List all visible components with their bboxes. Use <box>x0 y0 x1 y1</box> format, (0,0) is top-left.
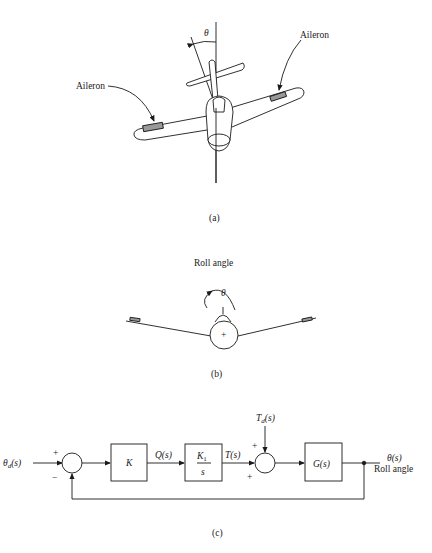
panel-a-theta-label: θ <box>204 28 209 38</box>
left-aileron-callout-arrow <box>108 86 154 121</box>
panel-b-theta-label: θ <box>221 288 226 298</box>
panel-b-airplane-front-view <box>126 290 316 349</box>
panel-b-title: Roll angle <box>194 258 233 268</box>
sum2-plus-top: + <box>252 441 257 451</box>
panel-b-center-mark: + <box>221 330 226 340</box>
right-aileron-callout-arrow <box>279 40 301 90</box>
output-theta-label: θ(s) <box>387 453 402 464</box>
summing-junction-1 <box>62 453 82 473</box>
right-aileron-label: Aileron <box>300 30 329 40</box>
disturbance-Td-label: Td(s) <box>256 413 275 425</box>
nose-cowling <box>208 134 230 146</box>
sum2-plus-bottom: + <box>247 472 252 482</box>
figure-canvas: θ Aileron Aileron (a) Roll angle θ + (b) <box>0 0 432 553</box>
sum1-minus-sign: − <box>52 473 57 483</box>
panel-c-caption: (c) <box>212 528 223 539</box>
block-G-label: G(s) <box>313 459 330 470</box>
left-aileron-label: Aileron <box>76 81 105 91</box>
left-wing-front <box>126 321 211 336</box>
theta-arc-arrow <box>193 41 216 44</box>
block-K1-denominator: s <box>201 467 205 477</box>
sum1-plus-sign: + <box>53 448 58 458</box>
panel-a-caption: (a) <box>209 213 220 224</box>
left-aileron-front <box>130 317 140 321</box>
panel-b-caption: (b) <box>211 369 222 380</box>
input-theta-d: θd(s) <box>3 458 21 470</box>
panel-a-airplane-top-view <box>108 22 304 183</box>
Q-signal-label: Q(s) <box>155 450 172 461</box>
right-aileron-front <box>302 317 312 322</box>
summing-junction-2 <box>255 453 275 473</box>
T-signal-label: T(s) <box>225 450 240 461</box>
output-roll-angle-label: Roll angle <box>374 464 413 474</box>
right-wing <box>230 88 304 127</box>
roll-direction-arrow <box>204 291 212 308</box>
block-K-label: K <box>125 458 133 468</box>
canopy <box>213 97 225 112</box>
